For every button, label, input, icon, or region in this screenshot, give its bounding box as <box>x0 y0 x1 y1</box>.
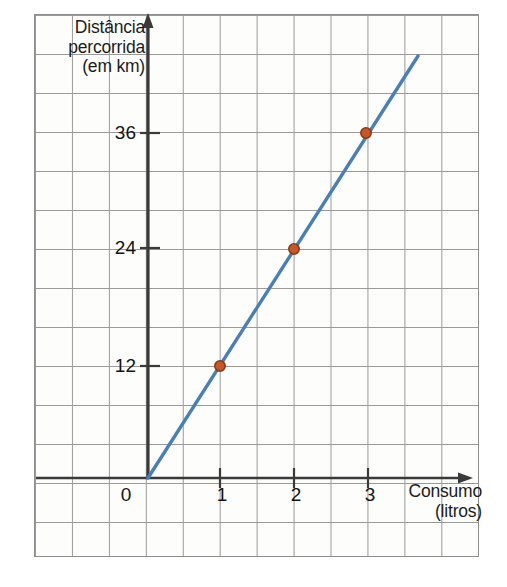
x-axis-label-line-1: Consumo <box>390 482 482 502</box>
origin-label: 0 <box>113 484 139 506</box>
y-axis-label: Distância percorrida (em km) <box>47 18 145 77</box>
y-axis-label-line-2: percorrida <box>47 38 145 58</box>
y-tick-label-24: 24 <box>96 237 136 259</box>
x-axis-label: Consumo (litros) <box>390 482 482 521</box>
y-tick-label-12: 12 <box>96 355 136 377</box>
x-axis-label-line-2: (litros) <box>390 502 482 522</box>
x-tick-label-1: 1 <box>209 484 235 506</box>
y-axis-label-line-1: Distância <box>47 18 145 38</box>
grid-background <box>34 14 479 557</box>
x-tick-label-3: 3 <box>357 484 383 506</box>
y-tick-label-36: 36 <box>96 122 136 144</box>
x-tick-label-2: 2 <box>283 484 309 506</box>
chart-container: Distância percorrida (em km) Consumo (li… <box>0 0 507 587</box>
y-axis-label-line-3: (em km) <box>47 57 145 77</box>
